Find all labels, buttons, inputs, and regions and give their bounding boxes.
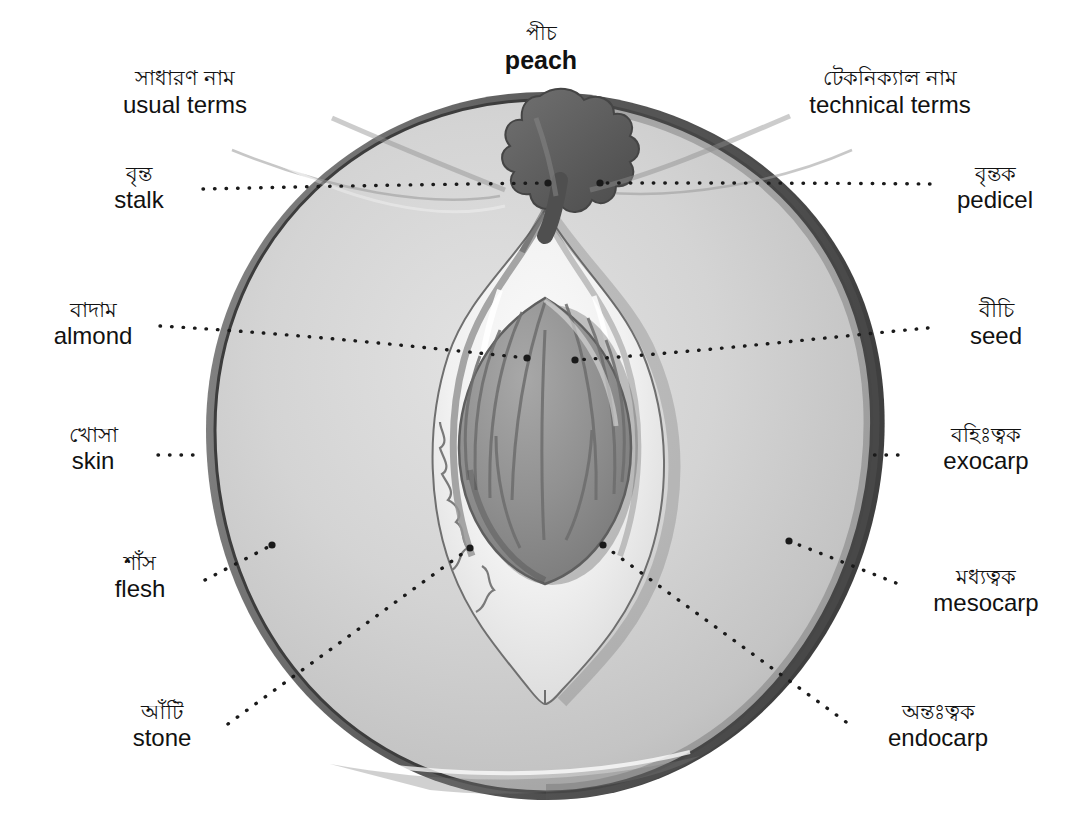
label-almond: বাদাম almond xyxy=(18,298,168,349)
label-almond-en: almond xyxy=(18,323,168,350)
label-stone-en: stone xyxy=(96,725,228,752)
label-exocarp-bn: বহিঃত্বক xyxy=(900,423,1072,447)
label-flesh-bn: শাঁস xyxy=(78,551,202,575)
label-pedicel-bn: বৃন্তক xyxy=(930,162,1060,186)
page-title-bn: পীচ xyxy=(466,22,616,45)
column-header-technical-terms-en: technical terms xyxy=(760,91,1020,118)
peach-illustration xyxy=(0,0,1078,821)
label-stalk-en: stalk xyxy=(74,187,204,214)
label-stone: আঁটি stone xyxy=(96,700,228,751)
label-stalk-bn: বৃন্ত xyxy=(74,162,204,186)
label-skin: খোসা skin xyxy=(26,423,160,474)
label-skin-en: skin xyxy=(26,448,160,475)
label-seed: বীচি seed xyxy=(936,298,1056,349)
label-exocarp: বহিঃত্বক exocarp xyxy=(900,423,1072,474)
column-header-usual-terms: সাধারণ নাম usual terms xyxy=(60,66,310,118)
label-endocarp: অন্তঃত্বক endocarp xyxy=(848,700,1028,751)
label-seed-en: seed xyxy=(936,323,1056,350)
label-flesh-en: flesh xyxy=(78,576,202,603)
label-skin-bn: খোসা xyxy=(26,423,160,447)
page-title-en: peach xyxy=(466,46,616,75)
label-seed-bn: বীচি xyxy=(936,298,1056,322)
column-header-technical-terms: টেকনিক্যাল নাম technical terms xyxy=(760,66,1020,118)
column-header-usual-terms-en: usual terms xyxy=(60,91,310,118)
label-pedicel-en: pedicel xyxy=(930,187,1060,214)
label-pedicel: বৃন্তক pedicel xyxy=(930,162,1060,213)
label-flesh: শাঁস flesh xyxy=(78,551,202,602)
label-mesocarp: মধ্যত্বক mesocarp xyxy=(898,565,1074,616)
label-mesocarp-bn: মধ্যত্বক xyxy=(898,565,1074,589)
page-title: পীচ peach xyxy=(466,22,616,74)
label-almond-bn: বাদাম xyxy=(18,298,168,322)
label-stalk: বৃন্ত stalk xyxy=(74,162,204,213)
column-header-usual-terms-bn: সাধারণ নাম xyxy=(60,66,310,90)
label-stone-bn: আঁটি xyxy=(96,700,228,724)
column-header-technical-terms-bn: টেকনিক্যাল নাম xyxy=(760,66,1020,90)
label-mesocarp-en: mesocarp xyxy=(898,590,1074,617)
diagram-canvas: পীচ peach সাধারণ নাম usual terms টেকনিক্… xyxy=(0,0,1078,821)
label-exocarp-en: exocarp xyxy=(900,448,1072,475)
label-endocarp-bn: অন্তঃত্বক xyxy=(848,700,1028,724)
label-endocarp-en: endocarp xyxy=(848,725,1028,752)
